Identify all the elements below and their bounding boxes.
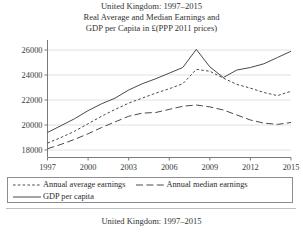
x-tick-label: 1997 — [39, 163, 56, 172]
series-line-gdp-per-capita — [48, 49, 292, 132]
data-series — [48, 49, 292, 148]
y-tick-label: 24000 — [22, 71, 43, 80]
legend-label-average-earnings: Annual average earnings — [43, 180, 125, 190]
y-axis-ticks: 1800020000220002400026000 — [22, 46, 48, 155]
series-line-annual-median-earnings — [48, 105, 292, 149]
figure-caption: United Kingdom: 1997–2015 — [0, 216, 303, 226]
legend-item-gdp-per-capita: GDP per capita — [13, 192, 94, 202]
y-tick-label: 22000 — [22, 96, 43, 105]
legend-label-median-earnings: Annual median earnings — [166, 180, 247, 190]
y-tick-label: 26000 — [22, 46, 43, 55]
x-tick-label: 2009 — [201, 163, 218, 172]
legend-swatch-gdp-per-capita — [13, 193, 41, 201]
x-tick-label: 2015 — [283, 163, 300, 172]
legend-swatch-average-earnings — [13, 181, 41, 189]
series-line-annual-average-earnings — [48, 69, 292, 143]
x-axis-ticks: 1997200020032006200920122015 — [39, 158, 299, 172]
y-tick-label: 20000 — [22, 121, 43, 130]
x-tick-label: 2000 — [80, 163, 97, 172]
legend-label-gdp-per-capita: GDP per capita — [43, 192, 94, 202]
legend-swatch-median-earnings — [136, 181, 164, 189]
legend-item-average-earnings: Annual average earnings — [13, 180, 125, 190]
legend-item-median-earnings: Annual median earnings — [136, 180, 247, 190]
chart-figure: United Kingdom: 1997–2015 Real Average a… — [0, 0, 303, 234]
x-tick-label: 2006 — [161, 163, 178, 172]
x-tick-label: 2003 — [120, 163, 137, 172]
footer-divider — [6, 208, 296, 209]
chart-legend: Annual average earnings Annual median ea… — [7, 177, 293, 203]
y-tick-label: 18000 — [22, 146, 43, 155]
gridlines — [48, 50, 292, 150]
x-tick-label: 2012 — [242, 163, 259, 172]
